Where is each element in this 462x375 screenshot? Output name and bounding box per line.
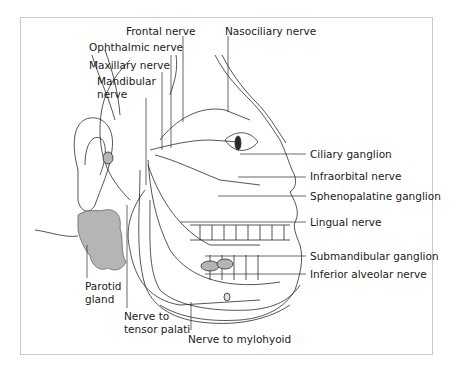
parotid-gland-shape <box>78 210 126 270</box>
ear <box>74 118 113 211</box>
label-ciliary-ganglion: Ciliary ganglion <box>310 148 392 161</box>
label-frontal-nerve: Frontal nerve <box>126 25 195 38</box>
label-nasociliary-nerve: Nasociliary nerve <box>225 25 316 38</box>
trigeminal-nerve-diagram <box>0 0 462 375</box>
label-mandibular-nerve: Mandibular nerve <box>97 75 156 101</box>
label-ophthalmic-nerve: Ophthalmic nerve <box>89 41 183 54</box>
facial-nerve-branch <box>35 230 78 236</box>
mental-foramen <box>224 293 230 301</box>
label-nerve-to-mylohyoid: Nerve to mylohyoid <box>188 333 291 346</box>
label-parotid-gland: Parotid gland <box>85 280 122 306</box>
teeth <box>190 225 290 280</box>
label-inferior-alveolar-nerve: Inferior alveolar nerve <box>310 268 427 281</box>
label-maxillary-nerve: Maxillary nerve <box>89 59 170 72</box>
label-sphenopalatine-ganglion: Sphenopalatine ganglion <box>310 190 441 203</box>
label-infraorbital-nerve: Infraorbital nerve <box>310 170 401 183</box>
submandibular-gland-right <box>217 259 233 269</box>
label-submandibular-ganglion: Submandibular ganglion <box>310 250 439 263</box>
label-nerve-to-tensor-palati: Nerve to tensor palati <box>124 310 190 336</box>
submandibular-gland-left <box>201 261 219 271</box>
label-lingual-nerve: Lingual nerve <box>310 216 382 229</box>
